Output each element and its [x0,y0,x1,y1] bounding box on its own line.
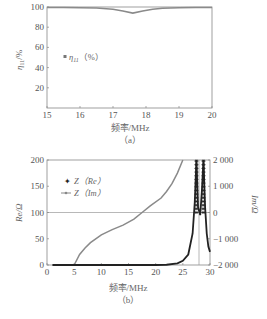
chart-a-efficiency-line [47,8,212,14]
x-tick-label: 15 [43,110,53,120]
x-tick-label: 10 [97,267,107,277]
chart-b-y-ticks-left: 050100150200 [31,155,50,270]
legend-label-re: Z（Re） [74,176,106,186]
chart-b-xlabel: 频率/MHz [109,282,148,293]
chart-a-y-ticks: 20406080100 [31,2,50,93]
figure: 20406080100 151617181920 η11（%） η11/% 频率… [0,0,267,319]
chart-b-ylabel-right: Im/Ω [250,194,260,214]
x-tick-label: 0 [45,267,50,277]
y-tick-label: 100 [31,208,45,218]
legend-label-im: Z（Im） [74,188,106,198]
chart-b-caption: （b） [117,295,140,305]
legend-plus-icon: ✦ [64,177,71,186]
x-tick-label: 25 [178,267,188,277]
x-tick-label: 5 [72,267,77,277]
x-tick-label: 19 [175,110,185,120]
legend-marker-icon [64,55,67,58]
x-tick-label: 18 [142,110,152,120]
chart-b-ylabel-left: Re/Ω [14,203,24,223]
legend-dot-icon [65,192,68,195]
chart-b-real-markers [194,160,205,214]
chart-a-ylabel: η11/% [14,49,25,70]
y-tick-label: 40 [35,63,45,73]
chart-a-xlabel: 频率/MHz [111,122,150,133]
y-tick-label: 100 [31,2,45,12]
y-tick-right-label: −1 000 [213,234,239,244]
y-tick-label: 150 [31,181,45,191]
x-tick-label: 16 [76,110,86,120]
y-tick-right-label: −2 000 [213,260,239,270]
x-tick-label: 20 [151,267,161,277]
y-tick-right-label: 1 000 [213,181,234,191]
chart-a: 20406080100 151617181920 η11（%） η11/% 频率… [14,2,217,145]
x-tick-label: 20 [208,110,218,120]
y-tick-right-label: 0 [213,208,218,218]
chart-a-legend: η11（%） [64,52,104,63]
y-tick-label: 20 [35,83,45,93]
y-tick-label: 80 [35,22,45,32]
y-tick-right-label: 2 000 [213,155,234,165]
y-tick-label: 200 [31,155,45,165]
chart-a-caption: （a） [119,135,141,145]
chart-b-y-ticks-right: −2 000−1 00001 0002 000 [208,155,239,270]
x-tick-label: 17 [109,110,119,120]
x-tick-label: 15 [124,267,134,277]
y-tick-label: 50 [35,234,45,244]
chart-b: 050100150200 −2 000−1 00001 0002 000 051… [14,155,260,305]
y-tick-label: 0 [40,260,45,270]
legend-label-eta: η11（%） [69,52,104,63]
chart-b-legend: ✦ Z（Re） Z（Im） [61,176,106,198]
y-tick-label: 60 [35,42,45,52]
x-tick-label: 30 [206,267,216,277]
